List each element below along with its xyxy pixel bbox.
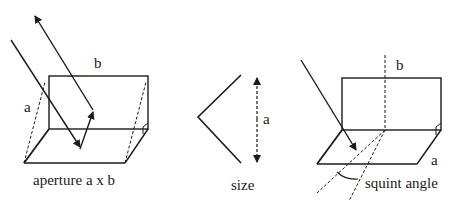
caption-size: size [231,177,255,193]
aperture-dashed-right [125,82,146,163]
caption-squint: squint angle [365,175,438,191]
incident-ray-arrow [11,40,80,147]
aperture-base-right-edge [125,129,148,163]
size-panel [198,75,257,163]
aperture-dashed-left [24,82,45,163]
label-size-a: a [263,111,270,127]
squint-incident-arrow [301,60,356,150]
diagram-canvas: b a aperture a x b a size b a squint ang… [0,0,453,204]
label-squint-a: a [431,152,438,168]
caption-aperture: aperture a x b [33,172,115,188]
label-b: b [94,55,102,71]
aperture-base-left-edge [24,129,49,163]
label-a: a [24,99,31,115]
squint-angle-arc [337,172,358,179]
label-squint-b: b [396,57,404,73]
reflected-ray-segment [80,112,93,149]
squint-back-plate [342,78,441,130]
return-ray-arrow [35,16,93,110]
aperture-panel [11,16,148,163]
squint-base-left-edge [317,130,342,164]
corner-reflector-profile [198,75,241,163]
